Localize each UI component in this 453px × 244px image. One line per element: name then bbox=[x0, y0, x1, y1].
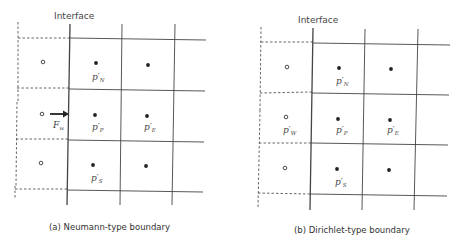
node-se-icon bbox=[144, 164, 148, 168]
ghost-node-icon bbox=[285, 65, 289, 69]
label-p-south: p′S bbox=[335, 177, 347, 188]
caption-a: (a) Neumann-type boundary bbox=[49, 222, 170, 232]
node-ne-icon bbox=[389, 67, 393, 71]
node-north-icon bbox=[94, 61, 98, 65]
interface-line bbox=[310, 28, 313, 210]
interface-label: Interface bbox=[298, 15, 339, 25]
label-p-east: p′E bbox=[387, 125, 399, 136]
interface-label: Interface bbox=[54, 11, 95, 21]
boundary-condition-diagram: Interface bbox=[0, 0, 453, 244]
ghost-node-icon bbox=[283, 166, 287, 170]
ghost-node-icon bbox=[39, 161, 43, 165]
label-p-north: p′N bbox=[336, 76, 349, 87]
interior-grid bbox=[67, 24, 206, 205]
panel-a-neumann: Interface bbox=[15, 11, 206, 232]
flux-arrow-icon bbox=[50, 111, 69, 118]
label-flux-west: Fw bbox=[52, 120, 64, 131]
node-south-icon bbox=[335, 167, 339, 171]
ghost-node-icon bbox=[41, 60, 45, 64]
node-north-icon bbox=[337, 66, 341, 70]
caption-b: (b) Dirichlet-type boundary bbox=[294, 225, 410, 235]
ghost-node-icon bbox=[40, 112, 44, 116]
label-p-center: p′P bbox=[336, 125, 348, 136]
ghost-node-icon bbox=[284, 115, 288, 119]
label-p-north: p′N bbox=[92, 72, 105, 83]
ghost-cell-boundary bbox=[15, 22, 70, 198]
node-east-icon bbox=[145, 114, 149, 118]
interior-grid bbox=[310, 28, 450, 210]
node-se-icon bbox=[387, 168, 391, 172]
panel-b-dirichlet: Interface bbox=[258, 15, 450, 235]
node-south-icon bbox=[91, 163, 95, 167]
node-east-icon bbox=[388, 118, 392, 122]
label-p-east: p′E bbox=[144, 122, 156, 133]
label-p-west: p′W bbox=[283, 125, 298, 136]
node-ne-icon bbox=[146, 63, 150, 67]
label-p-south: p′S bbox=[91, 173, 103, 184]
node-center-icon bbox=[336, 117, 340, 121]
node-center-icon bbox=[93, 113, 97, 117]
label-p-center: p′P bbox=[92, 122, 104, 133]
